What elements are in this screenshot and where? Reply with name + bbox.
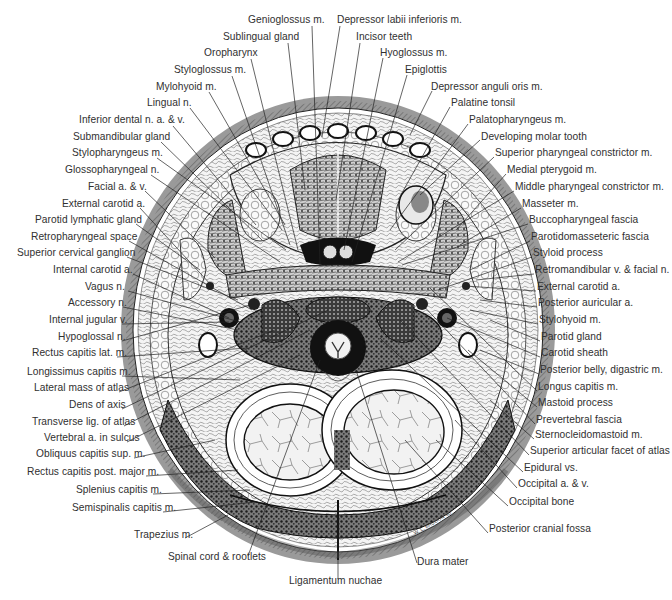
label-rectus-capitis-post-major: Rectus capitis post. major m. [27,466,159,478]
label-ligamentum-nuchae: Ligamentum nuchae [289,575,382,587]
label-middle-pharyngeal-constrictor: Middle pharyngeal constrictor m. [515,181,664,193]
label-vagus-nerve: Vagus n. [85,281,125,293]
label-longissimus-capitis: Longissimus capitis m. [27,366,131,378]
label-obliquus-capitis-sup: Obliquus capitis sup. m. [36,448,145,460]
label-oropharynx: Oropharynx [204,47,258,59]
label-sublingual-gland: Sublingual gland [223,31,299,43]
label-accessory-nerve: Accessory n. [68,297,127,309]
label-lateral-mass-atlas: Lateral mass of atlas [34,382,129,394]
label-submandibular-gland: Submandibular gland [73,131,170,143]
label-lingual-nerve: Lingual n. [147,97,192,109]
label-hypoglossal-nerve: Hypoglossal n. [58,331,126,343]
label-external-carotid-right: External carotid a. [537,281,620,293]
label-occipital-bone: Occipital bone [509,496,574,508]
label-carotid-sheath: Carotid sheath [541,347,608,359]
label-prevertebral-fascia: Prevertebral fascia [536,414,622,426]
label-semispinalis-capitis: Semispinalis capitis m. [72,502,176,514]
label-hyoglossus: Hyoglossus m. [380,47,447,59]
label-retropharyngeal-space: Retropharyngeal space [31,231,137,243]
label-genioglossus: Genioglossus m. [248,14,325,26]
label-internal-carotid: Internal carotid a. [53,264,133,276]
label-splenius-capitis: Splenius capitis m. [76,484,162,496]
label-medial-pterygoid: Medial pterygoid m. [507,164,597,176]
label-spinal-cord-rootlets: Spinal cord & rootlets [168,551,266,563]
label-styloglossus: Styloglossus m. [174,64,246,76]
label-posterior-cranial-fossa: Posterior cranial fossa [489,523,591,535]
label-sternocleidomastoid: Sternocleidomastoid m. [535,429,643,441]
label-retromandibular-vein: Retromandibular v. & facial n. [535,264,669,276]
label-mastoid-process: Mastoid process [538,397,613,409]
label-internal-jugular-vein: Internal jugular v. [49,314,127,326]
label-glossopharyngeal-nerve: Glossopharyngeal n. [65,164,159,176]
label-palatopharyngeus: Palatopharyngeus m. [469,114,566,126]
label-posterior-auricular: Posterior auricular a. [538,297,633,309]
label-parotid-lymphatic-gland: Parotid lymphatic gland [35,214,142,226]
label-inferior-dental-nav: Inferior dental n. a. & v. [79,114,185,126]
label-epidural-veins: Epidural vs. [524,462,578,474]
label-depressor-labii-inferioris: Depressor labii inferioris m. [337,14,462,26]
label-occipital-artery-vein: Occipital a. & v. [518,478,589,490]
label-superior-cervical-ganglion: Superior cervical ganglion [17,247,136,259]
label-masseter: Masseter m. [522,198,579,210]
label-facial-artery-vein: Facial a. & v. [88,181,147,193]
label-transverse-lig-atlas: Transverse lig. of atlas [32,416,135,428]
label-posterior-belly-digastric: Posterior belly, digastric m. [540,364,663,376]
label-incisor-teeth: Incisor teeth [356,31,412,43]
label-dens-of-axis: Dens of axis [69,399,126,411]
label-stylohyoid: Stylohyoid m. [539,314,601,326]
label-mylohyoid: Mylohyoid m. [156,81,217,93]
page-header [534,0,664,6]
label-depressor-anguli-oris: Depressor anguli oris m. [431,81,543,93]
label-rectus-capitis-lat: Rectus capitis lat. m. [32,347,127,359]
label-developing-molar: Developing molar tooth [481,131,587,143]
label-trapezius: Trapezius m. [134,529,193,541]
label-epiglottis: Epiglottis [405,64,447,76]
label-longus-capitis: Longus capitis m. [538,381,618,393]
anatomy-figure: W. L. BRUDON '80 [0,0,672,600]
label-dura-mater: Dura mater [417,556,468,568]
label-vertebral-artery: Vertebral a. in sulcus [44,432,140,444]
label-superior-articular-facet: Superior articular facet of atlas [530,445,670,457]
label-parotidomasseteric-fascia: Parotidomasseteric fascia [531,231,649,243]
label-buccopharyngeal-fascia: Buccopharyngeal fascia [529,214,638,226]
label-superior-pharyngeal-constrictor: Superior pharyngeal constrictor m. [495,147,652,159]
label-external-carotid-left: External carotid a. [62,198,145,210]
label-palatine-tonsil: Palatine tonsil [451,97,515,109]
label-styloid-process: Styloid process [533,247,603,259]
label-stylopharyngeus: Stylopharyngeus m. [72,147,163,159]
label-parotid-gland: Parotid gland [541,331,602,343]
